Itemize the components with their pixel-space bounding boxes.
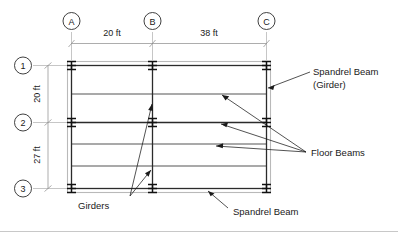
dim-label-1-2: 20 ft bbox=[32, 85, 42, 103]
column-B2[interactable] bbox=[148, 119, 157, 127]
annotation-floor-beams: Floor Beams bbox=[311, 147, 365, 158]
grid-bubble-B-label: B bbox=[149, 17, 155, 27]
columns-group bbox=[67, 62, 271, 193]
spandrel-beams-group bbox=[68, 62, 271, 193]
top-dimension-string: 20 ft 38 ft bbox=[69, 28, 270, 60]
annotation-spandrel-beam: Spandrel Beam bbox=[233, 206, 299, 217]
column-C1[interactable] bbox=[262, 62, 271, 70]
column-grid-bubbles: A B C bbox=[63, 13, 275, 30]
column-A3[interactable] bbox=[67, 185, 76, 193]
annotation-spandrel-girder-line1: Spandrel Beam bbox=[313, 66, 379, 77]
leader-spandrel-beam bbox=[208, 191, 228, 208]
girders-group bbox=[72, 66, 267, 189]
column-A2[interactable] bbox=[67, 119, 76, 127]
dim-label-A-B: 20 ft bbox=[103, 28, 121, 38]
leader-arrow-floor-beam-1 bbox=[222, 95, 229, 101]
leader-line-floor-beam-2 bbox=[221, 124, 306, 152]
column-C3[interactable] bbox=[262, 185, 271, 193]
row-grid-bubbles: 1 2 3 bbox=[15, 57, 32, 197]
dim-label-2-3: 27 ft bbox=[32, 146, 42, 164]
column-B1[interactable] bbox=[148, 62, 157, 70]
spandrel-inner-outline bbox=[72, 66, 267, 189]
floor-beams-group bbox=[72, 94, 267, 166]
grid-bubble-A-label: A bbox=[68, 17, 74, 27]
spandrel-outer-outline bbox=[68, 62, 271, 193]
leader-arrow-girder-2 bbox=[145, 170, 151, 177]
grid-bubble-C-label: C bbox=[263, 17, 270, 27]
framing-plan-diagram: 20 ft 38 ft A B C 20 ft 27 ft bbox=[0, 0, 398, 234]
column-B3[interactable] bbox=[148, 185, 157, 193]
grid-bubble-3-label: 3 bbox=[20, 184, 25, 194]
annotation-spandrel-girder-line2: (Girder) bbox=[313, 79, 346, 90]
grid-bubble-2-label: 2 bbox=[20, 118, 25, 128]
left-dimension-string: 20 ft 27 ft bbox=[32, 63, 68, 192]
column-A1[interactable] bbox=[67, 62, 76, 70]
grid-bubble-1-label: 1 bbox=[20, 61, 25, 71]
leader-spandrel-girder bbox=[268, 72, 310, 90]
dim-label-B-C: 38 ft bbox=[200, 28, 218, 38]
leader-line-floor-beam-3 bbox=[216, 146, 306, 152]
plan-drawing-canvas: 20 ft 38 ft A B C 20 ft 27 ft bbox=[0, 0, 398, 234]
annotation-girders: Girders bbox=[78, 200, 109, 211]
